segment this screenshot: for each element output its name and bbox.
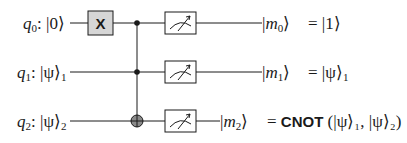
x-gate: X (88, 11, 113, 35)
output-state-m0: |m0⟩ (262, 15, 290, 34)
result-q2: = CNOT (|ψ⟩₁, |ψ⟩₂) (267, 113, 401, 130)
control-dot-q0 (134, 20, 140, 26)
qubit-label-q1: q1: |ψ⟩1 (17, 64, 67, 83)
measure-gate-q1 (165, 61, 196, 83)
output-state-m1: |m1⟩ (262, 64, 290, 83)
measure-gate-q2 (165, 110, 196, 132)
target-oplus-icon (131, 115, 143, 127)
svg-text:X: X (95, 15, 105, 32)
result-q0: = |1⟩ (308, 15, 341, 32)
qubit-label-q2: q2: |ψ⟩2 (17, 113, 67, 132)
cnot-label: CNOT (281, 113, 324, 130)
control-dot-q1 (134, 69, 140, 75)
measure-gate-q0 (165, 12, 196, 34)
qubit-label-q0: q0: |0⟩ (23, 15, 65, 34)
output-state-m2: |m2⟩ (220, 113, 248, 132)
result-q1: = |ψ⟩1 (308, 64, 348, 83)
